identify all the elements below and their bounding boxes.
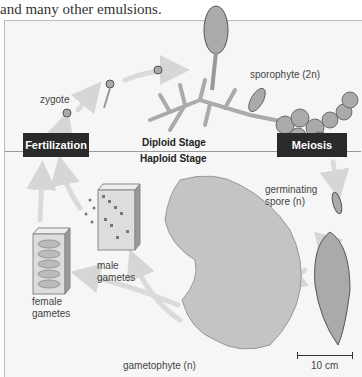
male-gametes-label-line1: male bbox=[97, 260, 119, 272]
male-gametes-label-line2: gametes bbox=[97, 272, 135, 284]
meiosis-box: Meiosis bbox=[277, 133, 347, 157]
female-gametes-label-line1: female bbox=[32, 296, 62, 308]
zygote-label: zygote bbox=[40, 94, 69, 106]
sporophyte-label: sporophyte (2n) bbox=[250, 69, 320, 81]
haploid-stage-label: Haploid Stage bbox=[140, 153, 207, 164]
germinating-spore-label-line1: germinating bbox=[265, 184, 317, 196]
germinating-spore-label-line2: spore (n) bbox=[265, 196, 305, 208]
scale-bar-label: 10 cm bbox=[311, 360, 338, 372]
sporangium-icon bbox=[204, 6, 228, 54]
scale-bar bbox=[297, 355, 353, 356]
diploid-stage-label: Diploid Stage bbox=[142, 137, 206, 148]
gametophyte-label: gametophyte (n) bbox=[123, 360, 196, 372]
fertilization-box: Fertilization bbox=[23, 133, 89, 157]
female-gametes-label-line2: gametes bbox=[32, 308, 70, 320]
